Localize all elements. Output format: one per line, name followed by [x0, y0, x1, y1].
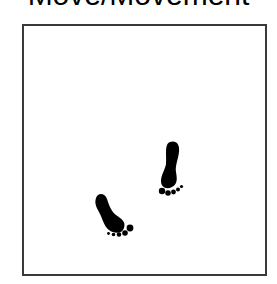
- footprint-right-icon: [156, 140, 188, 198]
- footprint-left-icon: [92, 192, 140, 238]
- card-title: Move/Movement: [0, 0, 277, 12]
- illustration-frame: [22, 24, 267, 276]
